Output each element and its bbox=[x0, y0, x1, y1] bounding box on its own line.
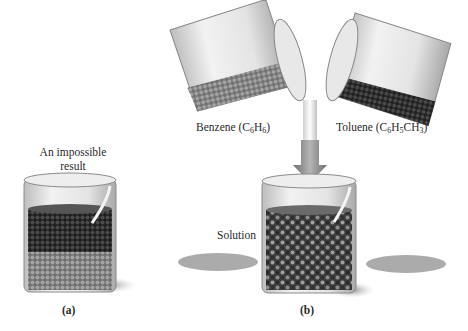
toluene-label: Toluene (C6H5CH3) bbox=[336, 121, 427, 135]
benzene-beaker-illustration bbox=[168, 0, 295, 113]
benzene-label: Benzene (C6H6) bbox=[196, 121, 270, 135]
beaker-b-illustration bbox=[262, 174, 356, 293]
beaker-a-illustration bbox=[24, 173, 136, 293]
caption-line-2: result bbox=[60, 160, 86, 172]
panel-label-b: (b) bbox=[300, 304, 314, 316]
caption-line-1: An impossible bbox=[40, 146, 107, 158]
solution-label: Solution bbox=[217, 229, 256, 241]
impossible-result-caption: An impossible result bbox=[28, 145, 118, 173]
panel-label-a: (a) bbox=[62, 304, 75, 316]
